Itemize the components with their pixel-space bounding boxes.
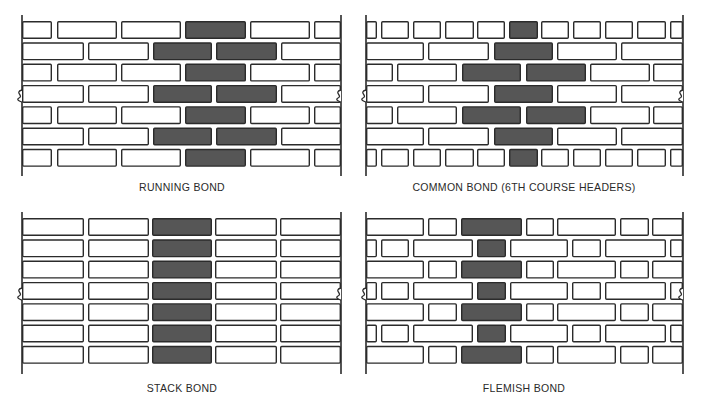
- brick: [382, 22, 409, 39]
- brick: [414, 283, 473, 300]
- brick: [89, 240, 149, 257]
- brick: [542, 22, 569, 39]
- brick-patterns-canvas: [0, 0, 704, 405]
- brick: [558, 304, 616, 321]
- brick: [23, 86, 84, 103]
- highlighted-brick: [154, 86, 212, 103]
- brick: [89, 347, 149, 364]
- stack-bond-panel: [18, 212, 341, 374]
- brick: [367, 64, 393, 81]
- brick: [251, 107, 310, 124]
- highlighted-brick: [462, 304, 522, 321]
- brick: [606, 22, 633, 39]
- brick: [23, 283, 84, 300]
- highlighted-brick: [478, 240, 506, 257]
- brick: [671, 240, 683, 257]
- wall-break-icon: [18, 288, 22, 300]
- highlighted-brick: [217, 86, 277, 103]
- brick: [671, 22, 683, 39]
- brick: [621, 304, 649, 321]
- brick: [282, 43, 341, 60]
- highlighted-brick: [495, 86, 553, 103]
- brick: [216, 240, 277, 257]
- brick: [251, 22, 310, 39]
- brick: [251, 64, 310, 81]
- brick: [23, 128, 84, 145]
- brick: [511, 240, 568, 257]
- brick: [58, 107, 117, 124]
- flemish-bond-label: FLEMISH BOND: [483, 382, 565, 394]
- brick: [558, 261, 616, 278]
- brick: [527, 261, 554, 278]
- brick: [216, 347, 277, 364]
- highlighted-brick: [510, 150, 538, 167]
- brick: [122, 64, 181, 81]
- brick: [671, 150, 683, 167]
- brick: [558, 86, 617, 103]
- brick: [527, 347, 554, 364]
- wall-break-icon: [362, 90, 366, 102]
- brick: [281, 219, 341, 236]
- highlighted-brick: [495, 43, 553, 60]
- brick: [573, 283, 601, 300]
- brick: [558, 128, 617, 145]
- brick: [654, 107, 683, 124]
- brick: [89, 261, 149, 278]
- brick: [58, 22, 117, 39]
- wall-break-icon: [362, 288, 366, 300]
- brick: [367, 261, 424, 278]
- brick: [23, 219, 84, 236]
- brick: [558, 219, 616, 236]
- brick: [511, 325, 568, 342]
- brick: [281, 347, 341, 364]
- brick: [367, 107, 393, 124]
- brick: [216, 261, 277, 278]
- highlighted-brick: [527, 107, 586, 124]
- brick: [606, 150, 633, 167]
- brick: [573, 325, 601, 342]
- highlighted-brick: [153, 240, 212, 257]
- brick: [621, 347, 649, 364]
- brick: [382, 150, 409, 167]
- brick: [367, 86, 424, 103]
- brick: [58, 150, 117, 167]
- highlighted-brick: [153, 261, 212, 278]
- brick: [122, 107, 181, 124]
- highlighted-brick: [463, 64, 521, 81]
- brick: [281, 325, 341, 342]
- brick: [414, 22, 441, 39]
- brick: [23, 240, 84, 257]
- brick: [122, 22, 181, 39]
- brick: [429, 86, 489, 103]
- brick: [429, 219, 457, 236]
- brick: [638, 150, 666, 167]
- highlighted-brick: [478, 283, 506, 300]
- highlighted-brick: [186, 22, 246, 39]
- brick: [367, 304, 424, 321]
- brick: [653, 304, 683, 321]
- brick: [414, 150, 441, 167]
- highlighted-brick: [154, 128, 212, 145]
- brick: [527, 304, 554, 321]
- brick: [621, 219, 649, 236]
- brick: [653, 261, 683, 278]
- brick: [574, 22, 601, 39]
- brick: [367, 22, 377, 39]
- brick: [23, 304, 84, 321]
- brick: [542, 150, 569, 167]
- brick: [429, 128, 489, 145]
- flemish-bond-panel: [362, 212, 683, 374]
- brick: [367, 43, 424, 60]
- brick: [89, 219, 149, 236]
- common-bond-label: COMMON BOND (6TH COURSE HEADERS): [412, 181, 635, 193]
- brick: [527, 219, 554, 236]
- brick: [478, 22, 505, 39]
- brick: [429, 261, 457, 278]
- brick: [653, 347, 683, 364]
- brick: [89, 304, 149, 321]
- highlighted-brick: [478, 325, 506, 342]
- brick: [621, 261, 649, 278]
- brick: [216, 219, 277, 236]
- brick: [282, 128, 341, 145]
- highlighted-brick: [217, 128, 277, 145]
